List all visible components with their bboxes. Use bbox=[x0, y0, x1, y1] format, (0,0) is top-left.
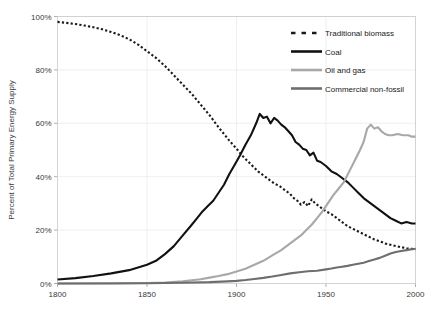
legend-label-1: Coal bbox=[325, 48, 342, 57]
chart-figure: 18001850190019502000 0%20%40%60%80%100% … bbox=[0, 0, 428, 311]
y-tick-label: 100% bbox=[31, 13, 51, 22]
y-tick-label: 0% bbox=[40, 280, 52, 289]
y-axis-title: Percent of Total Primary Energy Supply bbox=[7, 80, 16, 219]
chart-legend: Traditional biomassCoalOil and gasCommer… bbox=[291, 29, 404, 94]
x-tick-label: 1800 bbox=[49, 290, 67, 299]
legend-label-3: Commercial non-fossil bbox=[325, 85, 404, 94]
y-tick-label: 60% bbox=[35, 119, 51, 128]
y-tick-label: 80% bbox=[35, 66, 51, 75]
x-tick-label: 1950 bbox=[317, 290, 335, 299]
x-tick-label: 2000 bbox=[407, 290, 425, 299]
x-tick-label: 1900 bbox=[228, 290, 246, 299]
x-tick-label: 1850 bbox=[138, 290, 156, 299]
legend-label-2: Oil and gas bbox=[325, 66, 365, 75]
tickmarks bbox=[54, 17, 416, 288]
y-axis-tick-labels: 0%20%40%60%80%100% bbox=[31, 13, 51, 289]
y-tick-label: 20% bbox=[35, 226, 51, 235]
x-axis-tick-labels: 18001850190019502000 bbox=[49, 290, 425, 299]
chart-svg: 18001850190019502000 0%20%40%60%80%100% … bbox=[0, 0, 428, 311]
y-tick-label: 40% bbox=[35, 173, 51, 182]
legend-label-0: Traditional biomass bbox=[325, 29, 394, 38]
